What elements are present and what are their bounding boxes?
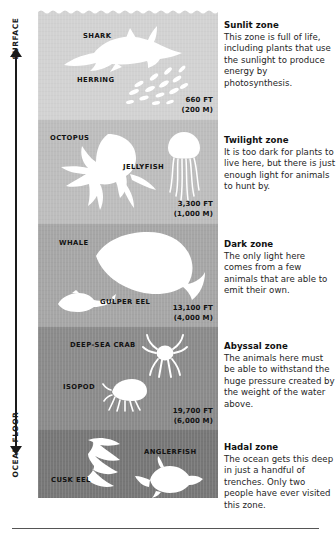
ocean-column: SHARK: [38, 8, 218, 498]
depth-marker-19700ft-feet: 19,700 FT: [173, 407, 213, 417]
description-body-hadal: The ocean gets this deep in just a handf…: [224, 454, 336, 511]
animal-label-herring: HERRING: [77, 76, 114, 84]
octopus-silhouette: [56, 130, 164, 214]
description-heading-abyssal: Abyssal zone: [224, 341, 336, 352]
depth-marker-13100ft-feet: 13,100 FT: [173, 304, 213, 314]
water-surface-scallop-icon: [38, 8, 218, 15]
description-body-sunlit: This zone is full of life, including pla…: [224, 32, 336, 89]
animal-label-deep-sea-crab: DEEP-SEA CRAB: [70, 341, 136, 349]
depth-marker-13100ft: 13,100 FT (4,000 M): [173, 304, 213, 323]
animal-label-anglerfish: ANGLERFISH: [144, 448, 197, 456]
description-abyssal-zone: Abyssal zone The animals here must be ab…: [224, 341, 336, 410]
isopod-silhouette: [102, 376, 150, 412]
depth-marker-660ft-feet: 660 FT: [182, 96, 213, 106]
description-heading-hadal: Hadal zone: [224, 442, 336, 453]
description-heading-twilight: Twilight zone: [224, 135, 336, 146]
description-dark-zone: Dark zone The only light here comes from…: [224, 239, 336, 297]
zone-descriptions: Sunlit zone This zone is full of life, i…: [224, 8, 331, 508]
description-body-abyssal: The animals here must be able to withsta…: [224, 353, 336, 410]
depth-axis: SURFACE OCEAN FLOOR: [0, 8, 30, 498]
animal-label-jellyfish: JELLYFISH: [123, 163, 164, 171]
animal-label-whale: WHALE: [59, 239, 88, 247]
description-body-dark: The only light here comes from a few ani…: [224, 251, 336, 297]
depth-marker-19700ft-meters: (6,000 M): [173, 417, 213, 427]
animal-label-shark: SHARK: [83, 32, 111, 40]
animal-label-isopod: ISOPOD: [63, 383, 95, 391]
animal-label-octopus: OCTOPUS: [50, 134, 89, 142]
description-hadal-zone: Hadal zone The ocean gets this deep in j…: [224, 442, 336, 511]
depth-marker-660ft: 660 FT (200 M): [182, 96, 213, 115]
animal-label-cusk-eel: CUSK EEL: [51, 476, 91, 484]
depth-marker-3300ft: 3,300 FT (1,000 M): [174, 200, 213, 219]
depth-marker-3300ft-meters: (1,000 M): [174, 210, 213, 220]
axis-label-ocean-floor: OCEAN FLOOR: [11, 402, 20, 488]
description-twilight-zone: Twilight zone It is too dark for plants …: [224, 135, 336, 193]
depth-marker-19700ft: 19,700 FT (6,000 M): [173, 407, 213, 426]
description-sunlit-zone: Sunlit zone This zone is full of life, i…: [224, 20, 336, 89]
description-heading-sunlit: Sunlit zone: [224, 20, 336, 31]
jellyfish-silhouette: [164, 130, 204, 204]
animal-label-gulper-eel: GULPER EEL: [100, 298, 150, 306]
deep-sea-crab-silhouette: [142, 334, 188, 378]
depth-marker-13100ft-meters: (4,000 M): [173, 314, 213, 324]
anglerfish-silhouette: [134, 456, 204, 498]
herring-school-silhouette: [124, 62, 190, 108]
footer-divider: [12, 528, 319, 529]
depth-marker-3300ft-feet: 3,300 FT: [174, 200, 213, 210]
depth-marker-660ft-meters: (200 M): [182, 106, 213, 116]
description-body-twilight: It is too dark for plants to live here, …: [224, 147, 336, 193]
axis-line: [15, 56, 17, 450]
description-heading-dark: Dark zone: [224, 239, 336, 250]
